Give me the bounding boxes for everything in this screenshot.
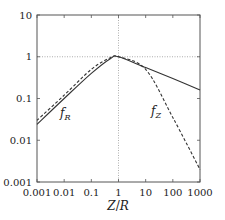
reference-lines (37, 15, 200, 182)
axis-ticks: 0.0010.010.111010010000.0010.010.1110 (3, 10, 212, 199)
series-label-fR: fR (59, 106, 70, 122)
series-label-fZ: fZ (150, 104, 161, 120)
x-tick-label: 1 (115, 187, 121, 198)
x-tick-label: 10 (139, 187, 152, 198)
y-tick-label: 10 (19, 10, 32, 21)
x-tick-label: 100 (163, 187, 182, 198)
y-tick-label: 0.001 (3, 177, 32, 188)
line-chart: 0.0010.010.111010010000.0010.010.1110 fR… (0, 0, 225, 220)
x-tick-label: 0.1 (83, 187, 99, 198)
x-tick-label: 0.001 (23, 187, 52, 198)
y-tick-label: 0.01 (10, 135, 32, 146)
x-axis-label: Z/R (106, 199, 128, 213)
y-tick-label: 0.1 (16, 93, 32, 104)
y-tick-label: 1 (26, 51, 32, 62)
x-tick-label: 0.01 (53, 187, 75, 198)
x-tick-label: 1000 (187, 187, 212, 198)
